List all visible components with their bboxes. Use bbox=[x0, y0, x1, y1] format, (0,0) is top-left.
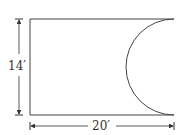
width-label: 20′ bbox=[92, 119, 110, 133]
height-label: 14′ bbox=[8, 59, 26, 73]
width-dimension: 20′ bbox=[30, 119, 174, 133]
shape-outline bbox=[30, 19, 174, 115]
figure: 14′ 20′ bbox=[0, 0, 185, 135]
height-dimension: 14′ bbox=[8, 19, 26, 115]
